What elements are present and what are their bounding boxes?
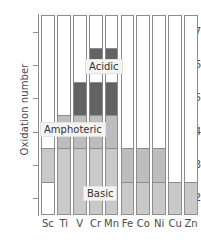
y-tick-5 bbox=[33, 98, 39, 99]
band-ti-basic bbox=[58, 148, 70, 215]
y-tick-3 bbox=[33, 165, 39, 166]
band-divider bbox=[122, 182, 134, 183]
y-tick-7 bbox=[33, 32, 39, 33]
band-divider bbox=[74, 148, 86, 149]
column-zn[interactable] bbox=[184, 15, 198, 215]
band-cr-acidic bbox=[90, 82, 102, 115]
band-divider bbox=[185, 182, 197, 183]
band-divider bbox=[74, 115, 86, 116]
y-axis-title: Oxidation number bbox=[19, 40, 30, 180]
band-divider bbox=[122, 148, 134, 149]
band-cr-basic bbox=[90, 148, 102, 215]
band-v-acidic bbox=[74, 82, 86, 115]
band-divider bbox=[42, 182, 54, 183]
band-divider bbox=[106, 148, 118, 149]
band-divider bbox=[90, 48, 102, 49]
region-label-amphoteric: Amphoteric bbox=[40, 122, 106, 137]
column-fe[interactable] bbox=[121, 15, 135, 215]
band-zn-basic bbox=[185, 182, 197, 215]
y-axis-line bbox=[38, 14, 39, 216]
band-mn-basic bbox=[106, 148, 118, 215]
band-co-amphoteric bbox=[137, 148, 149, 181]
band-v-basic bbox=[74, 148, 86, 215]
band-fe-basic bbox=[122, 182, 134, 215]
band-divider bbox=[106, 48, 118, 49]
y-tick-6 bbox=[33, 65, 39, 66]
region-label-acidic: Acidic bbox=[85, 59, 123, 74]
column-cu[interactable] bbox=[168, 15, 182, 215]
column-co[interactable] bbox=[136, 15, 150, 215]
band-divider bbox=[90, 148, 102, 149]
band-divider bbox=[106, 115, 118, 116]
band-divider bbox=[137, 182, 149, 183]
band-fe-amphoteric bbox=[122, 148, 134, 181]
band-divider bbox=[74, 82, 86, 83]
band-divider bbox=[58, 148, 70, 149]
band-divider bbox=[58, 115, 70, 116]
band-ni-amphoteric bbox=[153, 148, 165, 181]
band-divider bbox=[169, 182, 181, 183]
y-tick-2 bbox=[33, 198, 39, 199]
x-axis-label-zn: Zn bbox=[180, 218, 201, 229]
y-tick-4 bbox=[33, 132, 39, 133]
column-ti[interactable] bbox=[57, 15, 71, 215]
band-cu-basic bbox=[169, 182, 181, 215]
oxidation-number-chart: Oxidation number 234567 ScTiVCrMnFeCoNiC… bbox=[0, 0, 201, 242]
band-sc-basic bbox=[42, 148, 54, 181]
band-divider bbox=[106, 82, 118, 83]
band-ni-basic bbox=[153, 182, 165, 215]
plot-area bbox=[41, 15, 198, 215]
region-label-basic: Basic bbox=[83, 186, 117, 201]
column-ni[interactable] bbox=[152, 15, 166, 215]
band-divider bbox=[153, 182, 165, 183]
band-co-basic bbox=[137, 182, 149, 215]
band-divider bbox=[137, 148, 149, 149]
band-mn-acidic bbox=[106, 82, 118, 115]
band-mn-amphoteric bbox=[106, 115, 118, 148]
band-divider bbox=[153, 148, 165, 149]
band-divider bbox=[90, 115, 102, 116]
band-divider bbox=[42, 148, 54, 149]
column-sc[interactable] bbox=[41, 15, 55, 215]
band-divider bbox=[90, 82, 102, 83]
